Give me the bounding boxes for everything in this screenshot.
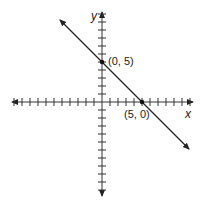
graph-svg <box>0 0 203 204</box>
x-axis-label: x <box>185 107 191 121</box>
y-axis-label: y <box>91 9 97 23</box>
point-label-y-intercept: (0, 5) <box>108 55 134 67</box>
graph-line-ext <box>102 62 189 149</box>
graph-line <box>60 20 102 62</box>
point-y-intercept <box>100 60 104 64</box>
coordinate-graph: y x (0, 5) (5, 0) <box>0 0 203 204</box>
point-x-intercept <box>140 100 144 104</box>
point-label-x-intercept: (5, 0) <box>124 108 150 120</box>
